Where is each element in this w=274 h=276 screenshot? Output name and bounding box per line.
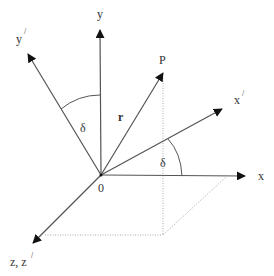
angle-arc-y [61,95,100,109]
x-axis-label: x [258,169,264,183]
z-prime-mark: / [31,251,34,260]
x-prime-mark: / [242,89,245,98]
point-p-label: P [159,53,166,67]
y-axis [100,30,101,175]
y-prime-axis [28,54,101,175]
angle-arc-x [168,139,182,176]
vector-r-label: r [118,110,124,124]
origin-label: 0 [98,181,104,195]
y-axis-label: y [97,7,103,21]
y-prime-axis-label: y [16,32,22,46]
position-vector-r [101,73,163,175]
delta-angle-label-y: δ [80,121,86,135]
x-prime-axis-label: x [234,93,240,107]
axes [28,30,245,243]
origin-point [100,174,103,177]
delta-angle-label-x: δ [160,156,166,170]
coordinate-rotation-diagram: 0 x y x / y / z, z / P r δ δ [0,0,274,276]
z-axis-label: z, z [10,255,27,269]
z-axis [33,175,101,243]
projection-diagonal [163,177,226,235]
labels: 0 x y x / y / z, z / P r δ δ [10,7,264,269]
x-axis [101,175,245,176]
y-prime-mark: / [24,27,27,36]
